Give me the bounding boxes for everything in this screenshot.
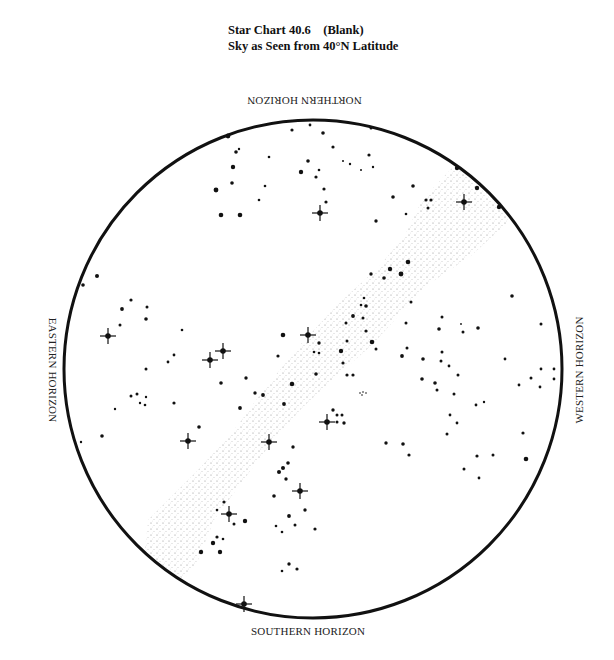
star-icon: [281, 570, 284, 573]
star-icon: [518, 384, 521, 387]
southern-horizon-label: SOUTHERN HORIZON: [251, 625, 365, 637]
star-icon: [524, 457, 529, 462]
star-icon: [233, 523, 236, 526]
star-icon: [410, 301, 413, 304]
star-icon: [460, 323, 462, 325]
bright-star-icon: [100, 328, 116, 344]
star-icon: [238, 406, 242, 410]
star-icon: [400, 354, 404, 358]
bright-star-icon: [292, 483, 308, 499]
star-icon: [230, 181, 234, 185]
star-icon: [331, 145, 334, 148]
star-icon: [284, 477, 287, 480]
star-icon: [540, 368, 543, 371]
star-icon: [361, 394, 363, 396]
star-icon: [521, 431, 524, 434]
star-icon: [401, 442, 405, 446]
star-icon: [475, 404, 478, 407]
star-icon: [341, 361, 344, 364]
star-icon: [294, 524, 297, 527]
star-icon: [80, 441, 82, 443]
star-icon: [478, 477, 481, 480]
star-icon: [441, 316, 444, 319]
star-icon: [318, 352, 321, 355]
star-icon: [406, 260, 411, 265]
star-icon: [290, 382, 295, 387]
eastern-horizon-label: EASTERN HORIZON: [47, 315, 59, 425]
star-icon: [321, 131, 325, 135]
star-icon: [483, 401, 485, 403]
star-icon: [365, 392, 367, 394]
star-icon: [346, 340, 349, 343]
star-icon: [119, 324, 122, 327]
star-icon: [181, 329, 184, 332]
bright-star-icon: [319, 414, 335, 430]
star-icon: [129, 298, 132, 301]
star-icon: [374, 219, 377, 222]
star-icon: [341, 414, 344, 417]
star-icon: [437, 327, 441, 331]
star-icon: [456, 422, 459, 425]
star-icon: [345, 373, 348, 376]
star-icon: [436, 389, 439, 392]
star-icon: [411, 184, 415, 188]
star-icon: [243, 519, 247, 523]
star-icon: [362, 317, 365, 320]
star-icon: [475, 186, 479, 190]
star-icon: [448, 365, 451, 368]
star-icon: [272, 494, 276, 498]
star-icon: [372, 166, 374, 168]
star-icon: [492, 454, 495, 457]
northern-horizon-label: NORTHERN HORIZON: [247, 95, 362, 107]
star-icon: [214, 188, 219, 193]
star-icon: [420, 377, 424, 381]
milky-way-band: [145, 168, 508, 582]
star-icon: [553, 368, 556, 371]
star-icon: [144, 404, 147, 407]
star-icon: [287, 562, 290, 565]
star-icon: [453, 393, 456, 396]
star-icon: [449, 414, 452, 417]
star-icon: [424, 198, 427, 201]
bright-star-icon: [180, 433, 196, 449]
star-icon: [360, 304, 363, 307]
star-icon: [261, 393, 265, 397]
star-icon: [281, 333, 286, 338]
star-icon: [539, 386, 542, 389]
star-icon: [231, 165, 235, 169]
star-icon: [81, 283, 85, 287]
star-icon: [324, 200, 327, 203]
star-icon: [331, 408, 334, 411]
star-icon: [342, 160, 344, 162]
star-icon: [476, 326, 480, 330]
star-icon: [351, 314, 355, 318]
star-icon: [222, 500, 225, 503]
star-icon: [318, 169, 321, 172]
star-icon: [363, 297, 366, 300]
star-icon: [388, 267, 392, 271]
star-icon: [382, 276, 386, 280]
star-icon: [342, 421, 345, 424]
star-icon: [100, 434, 104, 438]
star-icon: [276, 354, 279, 357]
star-icon: [336, 414, 339, 417]
star-icon: [303, 508, 306, 511]
star-icon: [530, 377, 533, 380]
star-icon: [457, 374, 460, 377]
star-icon: [286, 461, 290, 465]
star-icon: [391, 195, 395, 199]
star-icon: [275, 525, 278, 528]
star-icon: [253, 391, 256, 394]
star-icon: [130, 395, 133, 398]
star-icon: [199, 550, 203, 554]
star-icon: [282, 402, 286, 406]
star-icon: [222, 538, 225, 541]
western-horizon-label: WESTERN HORIZON: [573, 315, 585, 425]
bright-star-icon: [312, 205, 328, 221]
star-icon: [216, 509, 219, 512]
star-icon: [219, 381, 223, 385]
star-icon: [95, 274, 99, 278]
star-icon: [244, 376, 247, 379]
star-icon: [441, 351, 444, 354]
star-icon: [281, 531, 284, 534]
